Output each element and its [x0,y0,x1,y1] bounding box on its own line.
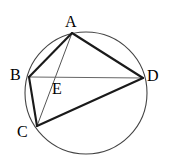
geometry-figure: A B C D E [0,0,171,163]
vertex-label-A: A [65,14,77,30]
vertex-label-D: D [147,68,159,84]
segment-AD [72,33,143,78]
segment-AB [29,33,72,77]
circumscribed-circle [25,32,147,154]
vertex-label-C: C [17,124,28,140]
segment-BD [29,77,143,78]
vertex-label-E: E [52,81,62,97]
vertex-label-B: B [10,67,21,83]
